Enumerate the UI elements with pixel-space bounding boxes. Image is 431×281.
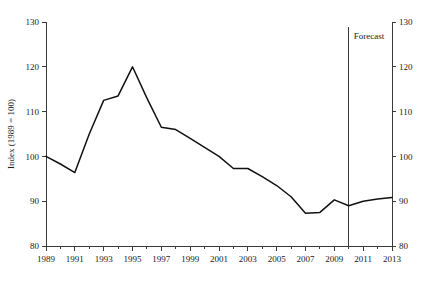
x-axis-ticks bbox=[46, 246, 392, 251]
x-tick-label: 2003 bbox=[239, 254, 258, 264]
y-tick-label-right: 80 bbox=[399, 241, 409, 251]
y-tick-label-right: 90 bbox=[399, 196, 409, 206]
forecast-divider: Forecast bbox=[349, 27, 385, 246]
x-tick-label: 1989 bbox=[37, 254, 56, 264]
x-tick-label: 2009 bbox=[325, 254, 344, 264]
y-tick-label-left: 90 bbox=[30, 196, 40, 206]
x-tick-label: 1997 bbox=[152, 254, 171, 264]
y-tick-label-left: 110 bbox=[26, 107, 40, 117]
y-tick-label-right: 100 bbox=[399, 152, 413, 162]
y-tick-label-left: 130 bbox=[26, 17, 40, 27]
x-tick-label: 2011 bbox=[354, 254, 372, 264]
x-tick-label: 1993 bbox=[95, 254, 114, 264]
x-tick-label: 1991 bbox=[66, 254, 84, 264]
y-axis-right-labels: 8090100110120130 bbox=[399, 17, 413, 251]
y-tick-label-right: 110 bbox=[399, 107, 413, 117]
x-tick-label: 2001 bbox=[210, 254, 228, 264]
y-tick-label-left: 120 bbox=[26, 62, 40, 72]
y-tick-label-right: 130 bbox=[399, 17, 413, 27]
forecast-label: Forecast bbox=[354, 31, 385, 41]
y-axis-title: Index (1989 = 100) bbox=[6, 99, 16, 169]
x-tick-label: 1999 bbox=[181, 254, 200, 264]
chart-container: 8090100110120130 8090100110120130 198919… bbox=[0, 0, 431, 281]
y-axis-right-ticks bbox=[392, 22, 396, 246]
y-axis-left-ticks bbox=[42, 22, 46, 246]
x-tick-label: 1995 bbox=[124, 254, 143, 264]
y-tick-label-left: 80 bbox=[30, 241, 40, 251]
x-tick-label: 2005 bbox=[268, 254, 287, 264]
y-axis-title-label: Index (1989 = 100) bbox=[6, 99, 16, 169]
axis-lines bbox=[46, 22, 392, 246]
series-line-index bbox=[46, 67, 392, 214]
x-axis-labels: 1989199119931995199719992001200320052007… bbox=[37, 254, 402, 264]
x-tick-label: 2007 bbox=[297, 254, 316, 264]
x-tick-label: 2013 bbox=[383, 254, 402, 264]
y-axis-left-labels: 8090100110120130 bbox=[26, 17, 40, 251]
y-tick-label-left: 100 bbox=[26, 152, 40, 162]
line-chart: 8090100110120130 8090100110120130 198919… bbox=[0, 0, 431, 281]
data-series-line bbox=[46, 67, 392, 214]
y-tick-label-right: 120 bbox=[399, 62, 413, 72]
